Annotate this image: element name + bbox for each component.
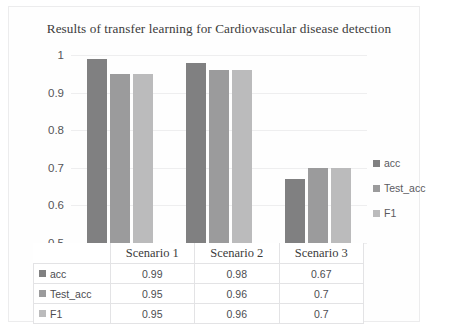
- bar-acc[interactable]: [285, 179, 305, 243]
- table-row-label: F1: [50, 308, 62, 320]
- legend-item-acc[interactable]: acc: [373, 157, 425, 169]
- chart-title: Results of transfer learning for Cardiov…: [39, 21, 399, 37]
- table-cell: 0.99: [110, 264, 195, 284]
- y-axis-tick-label: 0.9: [48, 87, 64, 99]
- y-axis-tick-label: 0.8: [48, 124, 64, 136]
- legend-swatch-icon: [39, 270, 46, 277]
- table-row: Test_acc0.950.960.7: [34, 284, 364, 304]
- legend-label: F1: [384, 207, 396, 219]
- table-cell: 0.7: [279, 304, 364, 324]
- legend-swatch-icon: [39, 310, 46, 317]
- y-axis-tick-label: 0.6: [48, 199, 64, 211]
- data-table: Scenario 1Scenario 2Scenario 3acc0.990.9…: [33, 243, 364, 324]
- table-row-label: Test_acc: [50, 288, 91, 300]
- bar-f1[interactable]: [331, 168, 351, 243]
- y-axis-tick-label: 1: [58, 49, 64, 61]
- table-cell: 0.67: [279, 264, 364, 284]
- table-row-label: acc: [50, 268, 66, 280]
- table-cell: 0.96: [195, 284, 280, 304]
- legend-swatch-icon: [373, 210, 380, 217]
- table-cell: 0.98: [195, 264, 280, 284]
- legend-label: acc: [384, 157, 400, 169]
- table-row: acc0.990.980.67: [34, 264, 364, 284]
- data-table-body: Scenario 1Scenario 2Scenario 3acc0.990.9…: [34, 243, 364, 324]
- legend-swatch-icon: [39, 290, 46, 297]
- table-row: F10.950.960.7: [34, 304, 364, 324]
- bar-f1[interactable]: [232, 70, 252, 243]
- table-row-header: F1: [34, 304, 111, 324]
- bar-acc[interactable]: [186, 63, 206, 243]
- bar-acc[interactable]: [87, 59, 107, 243]
- table-cell: 0.7: [279, 284, 364, 304]
- bar-group: [268, 55, 367, 243]
- table-column-header: Scenario 2: [195, 243, 280, 264]
- bar-test-acc[interactable]: [209, 70, 229, 243]
- table-row-header: Test_acc: [34, 284, 111, 304]
- legend-swatch-icon: [373, 185, 380, 192]
- table-column-header: Scenario 1: [110, 243, 195, 264]
- bar-test-acc[interactable]: [308, 168, 328, 243]
- table-corner-cell: [34, 243, 111, 264]
- bar-group: [71, 55, 170, 243]
- legend-item-f1[interactable]: F1: [373, 207, 425, 219]
- legend-label: Test_acc: [384, 182, 425, 194]
- plot-area: 10.90.80.70.60.5: [71, 55, 367, 243]
- table-cell: 0.95: [110, 284, 195, 304]
- table-cell: 0.95: [110, 304, 195, 324]
- chart-legend: accTest_accF1: [373, 157, 425, 219]
- legend-swatch-icon: [373, 160, 380, 167]
- bar-group: [170, 55, 269, 243]
- table-header-row: Scenario 1Scenario 2Scenario 3: [34, 243, 364, 264]
- table-cell: 0.96: [195, 304, 280, 324]
- y-axis-tick-label: 0.7: [48, 162, 64, 174]
- legend-item-test-acc[interactable]: Test_acc: [373, 182, 425, 194]
- bar-test-acc[interactable]: [110, 74, 130, 243]
- chart-frame: Results of transfer learning for Cardiov…: [8, 6, 420, 322]
- table-row-header: acc: [34, 264, 111, 284]
- table-column-header: Scenario 3: [279, 243, 364, 264]
- bar-f1[interactable]: [133, 74, 153, 243]
